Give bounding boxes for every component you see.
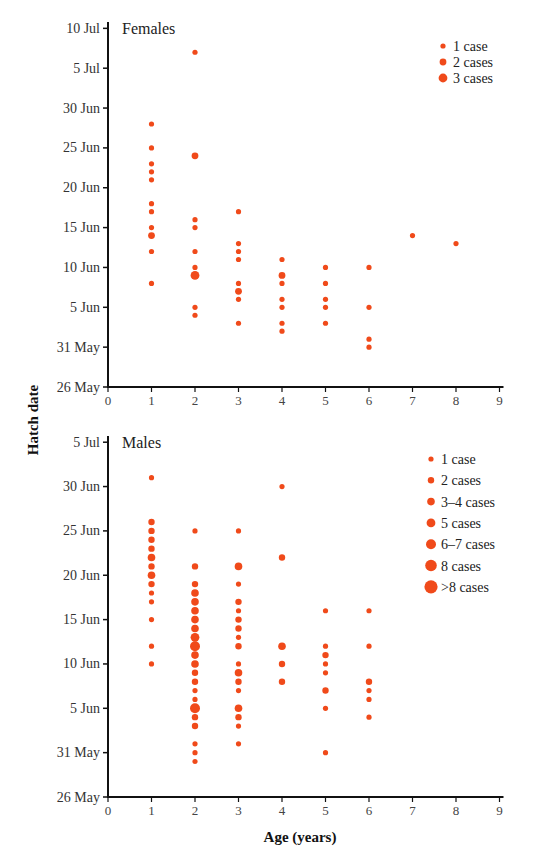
data-point [322,652,328,658]
x-tick-label: 8 [453,803,460,818]
y-tick-label: 10 Jul [66,21,100,36]
data-point [192,305,197,310]
data-point [192,152,199,159]
y-tick-label: 5 Jul [73,61,100,76]
data-point [191,616,199,624]
data-point [192,759,197,764]
data-point [235,678,241,684]
data-point [192,741,197,746]
data-point [191,607,199,615]
data-point [192,714,198,720]
data-point [323,608,328,613]
x-tick-label: 3 [235,393,242,408]
data-point [149,161,154,166]
data-point [149,121,154,126]
data-point [366,608,371,613]
legend-label: 2 cases [453,55,493,70]
data-point [278,642,286,650]
y-tick-label: 30 Jun [63,101,100,116]
data-point [236,209,241,214]
data-point [191,651,199,659]
x-tick-label: 0 [105,393,112,408]
data-point [149,169,154,174]
legend-label: >8 cases [441,580,489,595]
data-point [236,741,241,746]
data-point [279,484,284,489]
legend-marker [440,43,445,48]
data-point [190,641,200,651]
data-point [149,599,154,604]
data-point [149,249,154,254]
males-panel: 26 May31 May5 Jun10 Jun15 Jun20 Jun25 Ju… [57,434,504,818]
data-point [279,297,284,302]
data-point [235,599,241,605]
x-tick-label: 0 [105,803,112,818]
legend-label: 2 cases [441,473,481,488]
data-point [149,177,154,182]
x-tick-label: 6 [366,803,373,818]
legend-marker [427,498,435,506]
data-point [235,705,243,713]
legend-marker [426,539,436,549]
data-point [149,201,154,206]
data-point [192,563,198,569]
data-point [236,249,241,254]
y-tick-label: 10 Jun [63,656,100,671]
data-point [148,563,154,569]
data-point [235,563,243,571]
legend-marker [428,477,434,483]
data-point [236,528,241,533]
data-point [191,271,200,280]
data-point [148,528,154,534]
x-tick-label: 7 [409,393,416,408]
x-axis-title: Age (years) [264,829,337,846]
data-point [148,537,154,543]
data-point [279,661,285,667]
data-point [235,616,241,622]
data-point [279,281,284,286]
legend-marker [425,560,437,572]
legend-marker [440,59,447,66]
data-point [192,750,197,755]
x-tick-label: 3 [235,803,242,818]
data-point [149,590,154,595]
data-point [236,241,241,246]
data-point [322,687,328,693]
data-point [192,581,198,587]
y-tick-label: 5 Jun [70,701,100,716]
legend-label: 1 case [441,452,476,467]
x-tick-label: 4 [279,803,286,818]
y-tick-label: 15 Jun [63,220,100,235]
x-tick-label: 7 [409,803,416,818]
y-tick-label: 5 Jun [70,300,100,315]
data-point [236,281,241,286]
data-point [279,305,284,310]
y-tick-label: 20 Jun [63,180,100,195]
y-tick-label: 31 May [57,745,100,760]
data-point [366,345,371,350]
data-point [279,257,284,262]
data-point [149,209,154,214]
y-tick-label: 31 May [57,340,100,355]
data-point [192,265,197,270]
data-point [279,272,286,279]
panel-title: Females [122,20,175,37]
data-point [236,257,241,262]
y-tick-label: 25 Jun [63,523,100,538]
x-tick-label: 4 [279,393,286,408]
data-point [192,678,198,684]
data-point [366,688,371,693]
data-point [323,706,328,711]
data-point [148,519,154,525]
x-tick-label: 5 [322,803,329,818]
data-point [148,232,155,239]
data-point [323,305,328,310]
data-point [192,528,197,533]
data-point [192,50,197,55]
data-point [148,554,156,562]
data-point [323,265,328,270]
data-point [192,249,197,254]
x-tick-label: 9 [496,393,503,408]
data-point [192,723,198,729]
x-tick-label: 1 [148,803,155,818]
